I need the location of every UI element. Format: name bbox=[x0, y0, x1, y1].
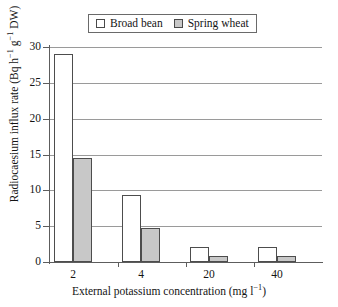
legend-item-broad-bean: Broad bean bbox=[96, 18, 163, 29]
bar-spring-wheat-2 bbox=[73, 158, 92, 262]
bar-spring-wheat-4 bbox=[141, 228, 160, 262]
plot-area bbox=[50, 47, 322, 262]
y-tick-label: 10 bbox=[5, 184, 41, 195]
x-axis-title: External potassium concentration (mg l−1… bbox=[0, 285, 338, 297]
chart-figure: Broad bean Spring wheat Radiocaesium inf… bbox=[0, 0, 338, 307]
y-tick-label: 15 bbox=[5, 149, 41, 160]
legend-label-broad-bean: Broad bean bbox=[110, 18, 163, 29]
x-tick-label: 20 bbox=[194, 268, 224, 280]
x-tick-label: 4 bbox=[126, 268, 156, 280]
gridline bbox=[50, 83, 322, 84]
gridline bbox=[50, 155, 322, 156]
y-tick-label: 20 bbox=[5, 113, 41, 124]
x-tick-mark bbox=[118, 262, 119, 267]
y-axis-title: Radiocaesium influx rate (Bq h−1 g−1 DW) bbox=[8, 0, 20, 249]
bar-broad-bean-2 bbox=[54, 54, 73, 262]
bar-broad-bean-20 bbox=[190, 247, 209, 262]
y-tick-label: 30 bbox=[5, 41, 41, 52]
y-axis-line bbox=[49, 45, 50, 264]
x-tick-label: 40 bbox=[262, 268, 292, 280]
gray-square-icon bbox=[174, 19, 183, 28]
gridline bbox=[50, 119, 322, 120]
x-tick-label: 2 bbox=[58, 268, 88, 280]
x-tick-mark bbox=[186, 262, 187, 267]
bar-broad-bean-40 bbox=[258, 247, 277, 262]
y-tick-label: 0 bbox=[5, 256, 41, 267]
bar-broad-bean-4 bbox=[122, 195, 141, 262]
legend-item-spring-wheat: Spring wheat bbox=[174, 18, 249, 29]
y-tick-label: 5 bbox=[5, 220, 41, 231]
white-square-icon bbox=[96, 19, 105, 28]
x-tick-mark bbox=[254, 262, 255, 267]
y-tick-label: 25 bbox=[5, 77, 41, 88]
chart-legend: Broad bean Spring wheat bbox=[88, 14, 257, 33]
legend-label-spring-wheat: Spring wheat bbox=[188, 18, 249, 29]
gridline bbox=[50, 47, 322, 48]
